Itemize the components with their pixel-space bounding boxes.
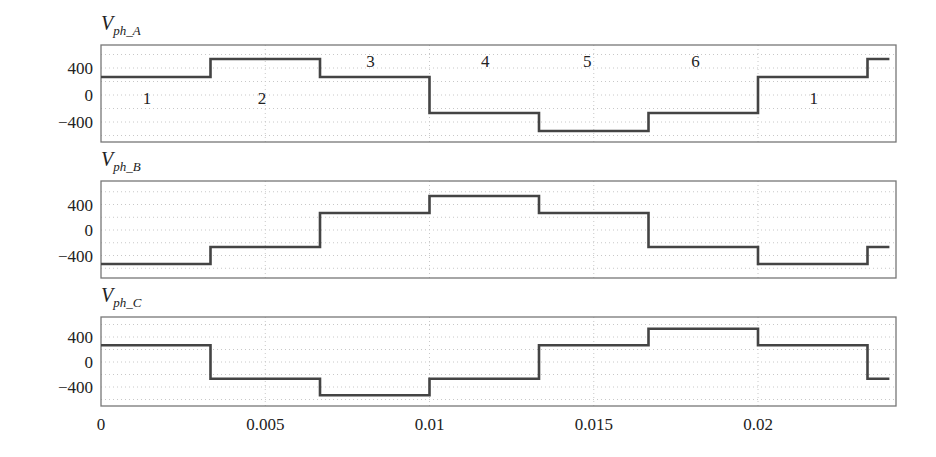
x-tick-label: 0.015 (575, 415, 613, 434)
sector-label: 5 (583, 52, 592, 71)
y-tick-label: 400 (68, 196, 94, 215)
y-tick-label: 0 (85, 221, 94, 240)
y-tick-label: 400 (68, 328, 94, 347)
panel-ph-a: 4000−400Vph_A1234561 (58, 12, 896, 142)
x-tick-label: 0.01 (415, 415, 445, 434)
sector-label: 4 (481, 52, 490, 71)
panel-ph-c: 4000−400Vph_C (58, 284, 896, 406)
sector-label: 6 (691, 52, 700, 71)
y-tick-label: −400 (58, 247, 93, 266)
x-tick-label: 0.005 (246, 415, 284, 434)
waveform-line (101, 329, 889, 396)
sector-label: 1 (810, 89, 819, 108)
panel-ph-b: 4000−400Vph_B (58, 148, 896, 278)
y-tick-label: 0 (85, 86, 94, 105)
panel-title: Vph_B (101, 148, 141, 174)
panel-title: Vph_C (101, 284, 142, 310)
plot-frame (101, 317, 896, 406)
x-tick-label: 0 (97, 415, 106, 434)
sector-label: 1 (143, 89, 152, 108)
y-tick-label: −400 (58, 113, 93, 132)
x-tick-label: 0.02 (743, 415, 773, 434)
phase-voltage-chart: 4000−400Vph_A12345614000−400Vph_B4000−40… (0, 0, 936, 457)
waveform-line (101, 59, 889, 131)
y-tick-label: −400 (58, 378, 93, 397)
y-tick-label: 400 (68, 59, 94, 78)
waveform-line (101, 196, 889, 264)
sector-label: 3 (366, 52, 375, 71)
y-tick-label: 0 (85, 353, 94, 372)
sector-label: 2 (258, 89, 267, 108)
panel-title: Vph_A (101, 12, 141, 38)
